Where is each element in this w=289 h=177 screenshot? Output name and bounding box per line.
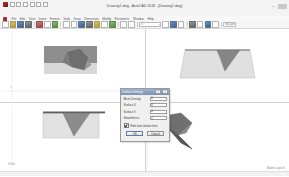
application-window: Drawing1.dwg - AutoCAD 2018 - [Drawing1.… [0,0,289,176]
ucs-icon-label-bl: World [8,163,15,166]
ok-button[interactable]: OK [126,131,143,136]
linetype-icon[interactable] [197,21,204,28]
menu-item-tools[interactable]: Tools [63,17,70,21]
dialog-field-row: Smoothness 1 [124,116,167,120]
menu-item-parametric[interactable]: Parametric [115,17,130,21]
menu-item-window[interactable]: Window [133,17,144,21]
main-toolbar: 0 ▾ ByLayer [0,22,289,29]
viewport-label-br: Model Layout1 [267,166,285,170]
mesh-density-input[interactable]: 6 [150,97,167,101]
layer-isolate-icon[interactable] [178,21,185,28]
dialog-close-button[interactable]: ✕ [162,89,168,95]
surface-u-input[interactable]: 6 [150,103,167,107]
chevron-down-icon: ▾ [159,23,160,26]
redo-icon[interactable] [71,21,78,28]
status-bar [0,171,289,176]
properties-icon[interactable] [101,21,108,28]
hide-lines-checkbox-row[interactable]: Hide lines below front [124,123,167,128]
menu-item-view[interactable]: View [29,17,36,21]
help-icon[interactable] [128,21,135,28]
color-swatch-icon[interactable] [189,21,196,28]
dialog-button-row: OK Cancel [124,131,167,136]
toolbar-separator [221,22,222,27]
plot-icon[interactable] [25,21,32,28]
pan-icon[interactable] [86,21,93,28]
copy-icon[interactable] [44,21,51,28]
erase-icon[interactable] [120,21,127,28]
save-icon[interactable] [17,21,24,28]
hide-lines-checkbox[interactable] [124,123,129,128]
menu-item-dimension[interactable]: Dimension [84,17,99,21]
zoom-icon[interactable] [78,21,85,28]
title-bar: Drawing1.dwg - AutoCAD 2018 - [Drawing1.… [0,0,289,17]
layer-combo[interactable]: 0 ▾ [139,22,161,27]
surface-v-label: Surface V [124,110,137,114]
lineweight-icon[interactable] [205,21,212,28]
menu-item-draw[interactable]: Draw [74,17,81,21]
surface-v-input[interactable]: 6 [150,110,167,114]
toolbar-separator [60,22,61,27]
dialog-field-row: Mesh Density 6 [124,97,167,101]
menu-item-edit[interactable]: Edit [20,17,25,21]
insert-block-icon[interactable] [109,21,116,28]
menu-item-insert[interactable]: Insert [39,17,47,21]
toolbar-separator [187,22,188,27]
open-icon[interactable] [10,21,17,28]
window-title: Drawing1.dwg - AutoCAD 2018 - [Drawing1.… [0,4,289,8]
window-controls: — [271,4,287,10]
menu-item-modify[interactable]: Modify [102,17,111,21]
undo-icon[interactable] [63,21,70,28]
linetype-field[interactable]: ByLayer [223,22,236,26]
dialog-title: Surface Settings [122,90,143,94]
smoothness-input[interactable]: 1 [150,116,167,120]
menu-item-help[interactable]: Help [147,17,153,21]
menu-item-file[interactable]: File [11,17,16,21]
dialog-help-button[interactable]: ? [155,89,161,95]
smoothness-label: Smoothness [124,116,140,120]
layer-properties-icon[interactable] [162,21,169,28]
cut-icon[interactable] [36,21,43,28]
layer-state-icon[interactable] [170,21,177,28]
drawing-canvas[interactable]: Y [0,29,289,177]
close-button[interactable] [278,4,287,10]
toolbar-separator [34,22,35,27]
dialog-field-row: Surface V 6 [124,110,167,114]
surface-settings-dialog[interactable]: Surface Settings ? ✕ Mesh Density 6 Surf… [120,88,170,142]
dialog-body: Mesh Density 6 Surface U 6 Surface V 6 S… [121,95,169,137]
ucs-icon-label-tl: Y [10,87,12,90]
mesh-density-label: Mesh Density [124,97,141,101]
dialog-field-row: Surface U 6 [124,103,167,107]
menu-app-icon[interactable] [3,17,7,21]
paste-icon[interactable] [52,21,59,28]
hide-lines-label: Hide lines below front [130,124,157,128]
new-icon[interactable] [2,21,9,28]
match-properties-icon[interactable] [94,21,101,28]
toolbar-separator [118,22,119,27]
minimize-button[interactable]: — [271,4,275,9]
dialog-title-buttons: ? ✕ [155,89,168,95]
layer-combo-value: 0 [141,23,142,26]
menu-item-format[interactable]: Format [50,17,60,21]
surface-u-label: Surface U [124,103,137,107]
toolbar-separator [137,22,138,27]
transparency-icon[interactable] [212,21,219,28]
cancel-button[interactable]: Cancel [147,131,164,136]
